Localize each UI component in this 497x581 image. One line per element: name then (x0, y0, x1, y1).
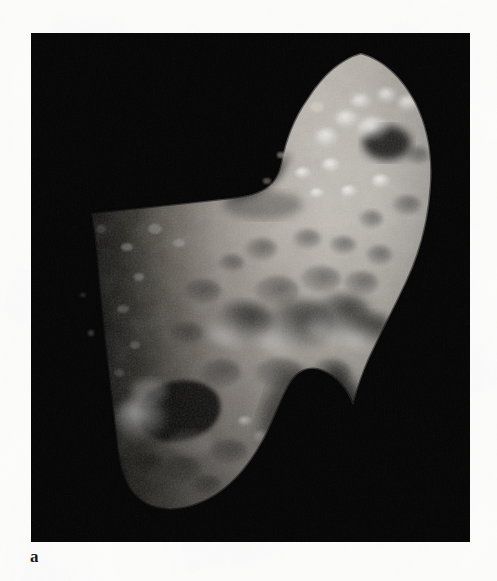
figure-image-panel (31, 33, 470, 542)
film-grain (31, 33, 470, 542)
figure-panel-label: a (30, 548, 39, 565)
asteroid-photograph (31, 33, 470, 542)
page-background: a (0, 0, 497, 581)
